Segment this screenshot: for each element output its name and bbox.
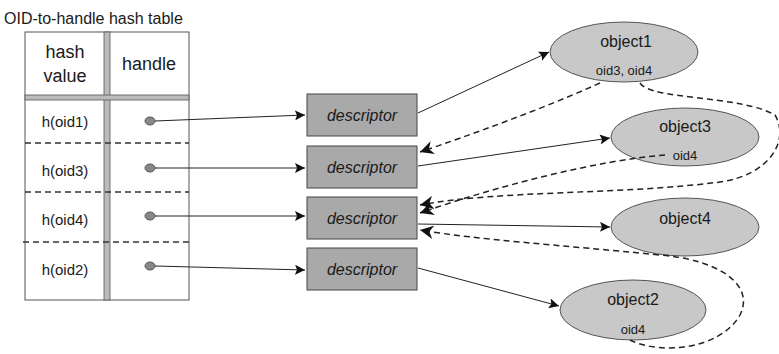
table-row-hash: h(oid3)	[42, 162, 89, 179]
descriptor-arrows	[418, 52, 610, 306]
table-row-hash: h(oid2)	[42, 261, 89, 278]
object-node	[611, 198, 759, 256]
handle-pointer-icon	[145, 117, 155, 125]
table-row-hash: h(oid1)	[42, 113, 89, 130]
diagram-canvas: OID-to-handle hash table hash value hand…	[0, 0, 779, 354]
handle-pointer-icon	[145, 164, 155, 172]
hash-table: hash value handle h(oid1) h(oid3) h(oid4…	[23, 32, 189, 300]
header-hash-value-line2: value	[43, 66, 86, 86]
descriptor-label: descriptor	[327, 210, 398, 227]
descriptor-label: descriptor	[327, 159, 398, 176]
object-name: object2	[607, 291, 659, 308]
descriptor-column: descriptor descriptor descriptor descrip…	[307, 94, 417, 290]
descriptor-label: descriptor	[327, 107, 398, 124]
header-hash-value: hash	[45, 42, 84, 62]
descriptor-label: descriptor	[327, 261, 398, 278]
handle-pointer-icon	[145, 262, 155, 270]
handle-pointer-icon	[145, 212, 155, 220]
object-name: object3	[659, 118, 711, 135]
object-name: object1	[600, 33, 652, 50]
table-row-hash: h(oid4)	[42, 211, 89, 228]
object-refs: oid4	[621, 322, 646, 337]
object-refs: oid4	[673, 148, 698, 163]
diagram-title: OID-to-handle hash table	[4, 10, 183, 27]
object-name: object4	[659, 210, 711, 227]
object-refs: oid3, oid4	[596, 63, 652, 78]
header-handle: handle	[122, 54, 176, 74]
